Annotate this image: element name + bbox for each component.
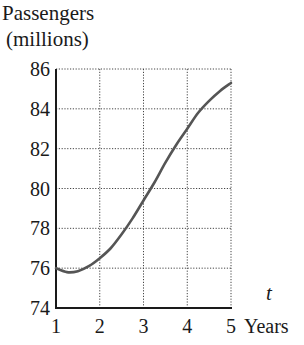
y-tick-label: 74 <box>30 297 50 319</box>
line-chart: 74767880828486 12345 t Years <box>0 0 304 345</box>
x-tick-label: 1 <box>51 315 61 337</box>
x-variable-label: t <box>266 281 273 305</box>
y-tick-label: 76 <box>30 257 50 279</box>
x-tick-label: 5 <box>226 315 236 337</box>
x-tick-labels: 12345 <box>51 315 236 337</box>
y-tick-label: 86 <box>30 58 50 80</box>
y-tick-label: 82 <box>30 138 50 160</box>
y-tick-labels: 74767880828486 <box>30 58 50 319</box>
y-tick-label: 80 <box>30 178 50 200</box>
x-tick-label: 3 <box>139 315 149 337</box>
y-tick-label: 78 <box>30 217 50 239</box>
x-axis-title: Years <box>244 315 289 337</box>
x-tick-label: 4 <box>182 315 192 337</box>
y-tick-label: 84 <box>30 98 50 120</box>
x-tick-label: 2 <box>95 315 105 337</box>
